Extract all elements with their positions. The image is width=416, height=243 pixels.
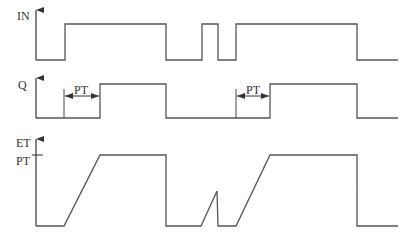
- in-label: IN: [17, 10, 30, 22]
- q-label: Q: [18, 79, 27, 91]
- et-pt-label: PT: [16, 155, 30, 167]
- timing-diagram: [0, 0, 416, 243]
- pt-label-2: PT: [246, 84, 260, 96]
- et-label: ET: [16, 137, 31, 149]
- et-waveform: [36, 155, 398, 226]
- pt-label-1: PT: [74, 84, 88, 96]
- in-waveform: [36, 24, 398, 60]
- q-waveform: [36, 84, 398, 118]
